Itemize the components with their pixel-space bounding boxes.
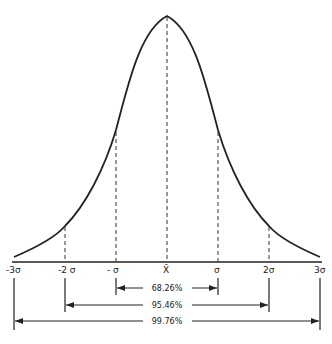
label-plus-2-sigma: 2σ: [263, 265, 275, 275]
range-95: 95.46%: [66, 301, 268, 310]
label-mean: X̄: [163, 264, 169, 275]
svg-text:99.76%: 99.76%: [152, 317, 183, 326]
label-plus-3-sigma: 3σ: [314, 265, 326, 275]
label-minus-2-sigma: -2 σ: [58, 265, 76, 275]
range-99: 99.76%: [15, 317, 319, 326]
label-minus-3-sigma: -3σ: [6, 265, 21, 275]
range-68: 68.26%: [117, 284, 217, 293]
svg-text:95.46%: 95.46%: [152, 301, 183, 310]
label-minus-1-sigma: - σ: [107, 265, 119, 275]
label-plus-1-sigma: σ: [214, 265, 220, 275]
normal-curve-diagram: -3σ -2 σ - σ X̄ σ 2σ 3σ 68.26% 95.46% 99…: [0, 0, 332, 344]
svg-text:68.26%: 68.26%: [152, 284, 183, 293]
